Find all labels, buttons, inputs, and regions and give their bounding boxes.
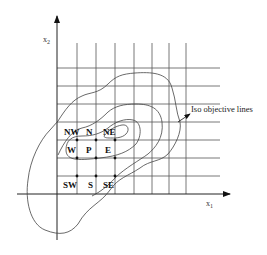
label-e: E [105, 145, 111, 155]
annotation-arrow [178, 114, 190, 122]
label-n: N [86, 127, 93, 137]
stencil-labels: NW N NE W P E SW S SE [63, 127, 116, 190]
x2-axis-label: x2 [43, 35, 50, 45]
label-w: W [67, 145, 76, 155]
iso-objective-diagram: x2 x1 Iso objective lines NW N NE W P E … [0, 0, 267, 255]
label-s: S [88, 180, 93, 190]
label-nw: NW [64, 127, 80, 137]
label-ne: NE [103, 127, 116, 137]
iso-objective-contours [27, 73, 180, 234]
grid [57, 43, 220, 194]
label-p: P [86, 145, 92, 155]
x1-axis-label: x1 [206, 199, 213, 209]
annotation-label: Iso objective lines [191, 104, 253, 114]
label-sw: SW [63, 180, 77, 190]
label-se: SE [103, 180, 114, 190]
